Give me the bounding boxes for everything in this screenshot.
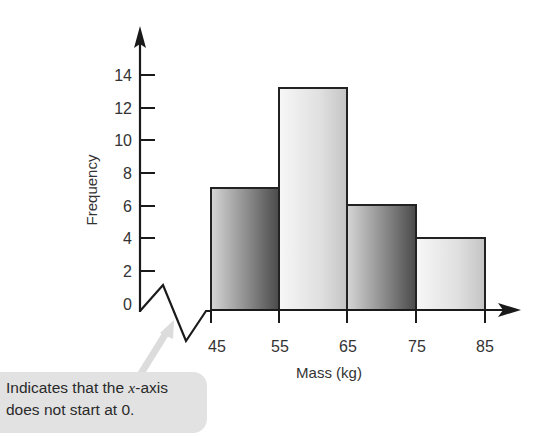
x-tick-65: 65	[339, 338, 357, 355]
axis-break-zigzag	[140, 285, 212, 341]
x-tick-85: 85	[476, 338, 494, 355]
callout-line-1: Indicates that the x-axis	[6, 377, 207, 399]
y-tick-10: 10	[114, 132, 132, 149]
y-tick-14: 14	[114, 67, 132, 84]
y-tick-12: 12	[114, 100, 132, 117]
x-tick-75: 75	[408, 338, 426, 355]
y-axis-title: Frequency	[83, 154, 100, 225]
y-tick-0: 0	[123, 296, 132, 313]
x-tick-45: 45	[208, 338, 226, 355]
callout-pointer-arrow	[140, 320, 174, 375]
callout-line-2: does not start at 0.	[6, 399, 207, 421]
x-tick-55: 55	[271, 338, 289, 355]
bar-55-65	[279, 88, 347, 310]
y-tick-6: 6	[123, 198, 132, 215]
y-tick-8: 8	[123, 165, 132, 182]
y-tick-4: 4	[123, 230, 132, 247]
bar-45-55	[211, 188, 279, 310]
x-axis-title: Mass (kg)	[296, 364, 362, 381]
axis-break-callout: Indicates that the x-axis does not start…	[0, 372, 207, 433]
bar-65-75	[347, 205, 416, 310]
bars	[211, 88, 485, 310]
bar-75-85	[416, 238, 485, 310]
y-axis: 14 12 10 8 6 4 2 0 Frequency	[83, 26, 155, 313]
y-tick-2: 2	[123, 263, 132, 280]
